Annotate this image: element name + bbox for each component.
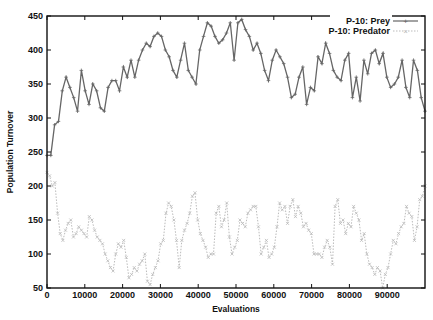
y-tick-label: 200 (28, 181, 43, 191)
x-axis-label: Evaluations (212, 304, 260, 314)
plot-series (45, 18, 427, 290)
y-tick-label: 150 (28, 215, 43, 225)
series-line-prey (47, 19, 425, 155)
y-tick-label: 400 (28, 45, 43, 55)
y-tick-label: 50 (33, 283, 43, 293)
series-markers-predator (46, 171, 427, 290)
x-tick-label: 90000 (375, 290, 400, 300)
y-tick-label: 300 (28, 113, 43, 123)
y-tick-label: 100 (28, 249, 43, 259)
x-tick-label: 40000 (186, 290, 211, 300)
legend-marker-prey: + (403, 17, 408, 26)
x-tick-label: 80000 (337, 290, 362, 300)
y-tick-label: 350 (28, 79, 43, 89)
legend-label-predator: P-10: Predator (328, 26, 390, 36)
series-line-predator (47, 172, 425, 288)
plot-frame (47, 16, 425, 288)
y-tick-label: 450 (28, 11, 43, 21)
y-axis-label: Population Turnover (5, 110, 15, 193)
x-tick-label: 20000 (110, 290, 135, 300)
line-chart: 0100002000030000400005000060000700008000… (0, 0, 433, 320)
x-tick-label: 50000 (223, 290, 248, 300)
x-tick-label: 0 (44, 290, 49, 300)
y-tick-label: 250 (28, 147, 43, 157)
x-tick-label: 60000 (261, 290, 286, 300)
legend-label-prey: P-10: Prey (346, 16, 390, 26)
legend: P-10: Prey + P-10: Predator × (318, 15, 418, 36)
y-axis: 50100150200250300350400450 (28, 11, 425, 293)
x-tick-label: 10000 (72, 290, 97, 300)
x-tick-label: 70000 (299, 290, 324, 300)
legend-marker-predator: × (403, 27, 408, 36)
x-tick-label: 30000 (148, 290, 173, 300)
